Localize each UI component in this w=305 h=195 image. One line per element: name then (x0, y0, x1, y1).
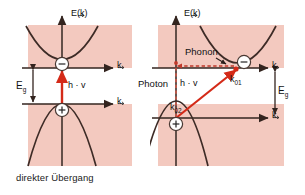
momentum-axis-label-upper-direct: k (117, 60, 131, 70)
phonon-label: Phonon (185, 46, 218, 57)
hole-marker (55, 103, 68, 116)
k01-point (233, 66, 238, 71)
momentum-axis-label-upper-indirect: k (272, 60, 286, 70)
panel-direct-transition: E(k) k k Eg h · v direkter Übergang (0, 0, 150, 195)
band-gap-label-direct: Eg (16, 80, 26, 93)
momentum-axis-label-lower-indirect: k (272, 110, 286, 120)
k02-label: k02 (170, 102, 182, 114)
momentum-axis-label-lower-direct: k (117, 96, 131, 106)
valence-band-region (28, 104, 132, 166)
caption-direct: direkter Übergang (16, 172, 94, 183)
band-gap-label-sub: g (23, 86, 27, 93)
photon-label: Photon (138, 78, 168, 89)
figure-canvas: E(k) k k Eg h · v direkter Übergang (0, 0, 305, 195)
photon-origin-dot (174, 61, 178, 65)
photon-energy-label-direct: h · v (68, 80, 86, 90)
band-gap-label-indirect: Eg (278, 85, 288, 98)
hole-marker (169, 117, 182, 130)
k02-label-sub: 02 (175, 107, 182, 114)
photon-energy-label-text: h · v (180, 78, 198, 88)
band-gap-label-sub: g (285, 91, 289, 98)
k01-label-sub: 01 (235, 79, 242, 86)
energy-axis-label-indirect: E(k) (184, 8, 210, 18)
energy-axis-label-direct: E(k) (71, 8, 97, 18)
photon-energy-label-text: h · v (68, 80, 86, 90)
phonon-label-text: Phonon (185, 46, 218, 57)
photon-label-text: Photon (138, 78, 168, 89)
band-gap-label-text: E (278, 85, 285, 96)
photon-energy-label-indirect: h · v (180, 78, 198, 88)
k01-label: k01 (230, 74, 242, 86)
band-gap-label-text: E (16, 80, 23, 91)
panel-indirect-transition: E(k) k k Eg Phonon Photon (150, 0, 305, 195)
electron-marker (237, 55, 250, 68)
electron-marker (55, 57, 68, 70)
